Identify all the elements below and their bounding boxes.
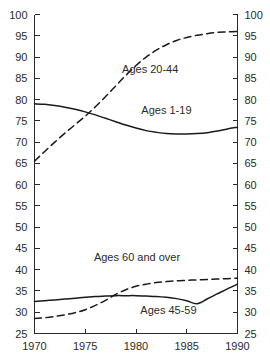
y-tick-label-right: 70 (245, 136, 257, 148)
y-tick-label-left: 80 (15, 94, 27, 106)
x-axis-ticks: 19701975198019851990 (22, 329, 249, 352)
series-label-ages-45-59: Ages 45-59 (140, 304, 196, 316)
chart-figure: 253035404550556065707580859095100 253035… (0, 0, 270, 359)
y-tick-label-left: 65 (15, 157, 27, 169)
y-tick-label-left: 25 (15, 328, 27, 340)
series-label-ages-20-44: Ages 20-44 (122, 63, 178, 75)
y-tick-label-right: 90 (245, 51, 257, 63)
x-tick-label: 1980 (124, 340, 148, 352)
x-tick-label: 1985 (175, 340, 199, 352)
x-tick-label: 1970 (22, 340, 46, 352)
line-chart: 253035404550556065707580859095100 253035… (0, 0, 270, 359)
y-tick-label-right: 50 (245, 221, 257, 233)
x-tick-label: 1975 (73, 340, 97, 352)
series-annotations: Ages 1-19Ages 20-44Ages 60 and overAges … (94, 63, 197, 316)
y-tick-label-left: 100 (9, 9, 27, 21)
series-line-ages-45-59 (35, 284, 238, 304)
y-tick-label-right: 60 (245, 179, 257, 191)
y-tick-label-left: 95 (15, 30, 27, 42)
y-tick-label-right: 40 (245, 264, 257, 276)
y-tick-label-right: 100 (245, 9, 263, 21)
y-tick-label-left: 75 (15, 115, 27, 127)
y-tick-label-left: 90 (15, 51, 27, 63)
y-tick-label-left: 85 (15, 72, 27, 84)
y-tick-label-left: 50 (15, 221, 27, 233)
y-tick-label-right: 55 (245, 200, 257, 212)
x-tick-label: 1990 (225, 340, 249, 352)
y-tick-label-right: 80 (245, 94, 257, 106)
y-tick-label-left: 55 (15, 200, 27, 212)
y-tick-label-left: 70 (15, 136, 27, 148)
y-tick-label-right: 25 (245, 328, 257, 340)
series-line-ages-20-44 (35, 32, 238, 162)
y-tick-label-right: 65 (245, 157, 257, 169)
y-tick-label-right: 35 (245, 285, 257, 297)
y-tick-label-left: 45 (15, 242, 27, 254)
y-tick-label-left: 30 (15, 306, 27, 318)
y-tick-label-right: 85 (245, 72, 257, 84)
series-label-ages-60-and-over: Ages 60 and over (94, 251, 181, 263)
series-label-ages-1-19: Ages 1-19 (141, 104, 191, 116)
y-tick-label-right: 75 (245, 115, 257, 127)
y-tick-label-left: 60 (15, 179, 27, 191)
y-tick-label-right: 30 (245, 306, 257, 318)
series-line-ages-1-19 (35, 104, 238, 134)
y-tick-label-left: 40 (15, 264, 27, 276)
y-tick-label-right: 95 (245, 30, 257, 42)
y-tick-label-left: 35 (15, 285, 27, 297)
y-tick-label-right: 45 (245, 242, 257, 254)
